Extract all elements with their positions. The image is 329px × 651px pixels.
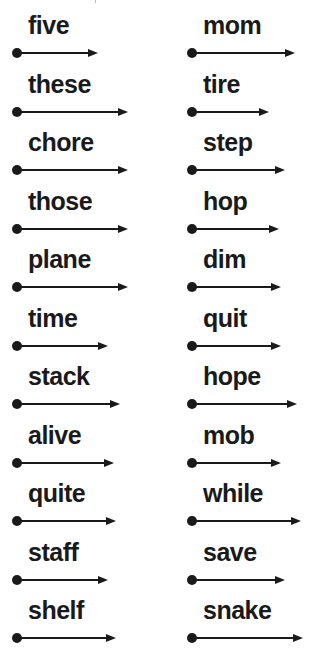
- arrowhead-icon: [271, 459, 281, 467]
- word-label: staff: [28, 538, 78, 566]
- writing-arrow: [187, 574, 285, 586]
- arrow-shaft: [193, 228, 271, 230]
- arrow-shaft: [193, 111, 261, 113]
- word-label: shelf: [28, 596, 84, 624]
- arrowhead-icon: [275, 576, 285, 584]
- arrowhead-icon: [88, 49, 98, 57]
- arrow-shaft: [193, 637, 295, 639]
- writing-arrow: [12, 340, 108, 352]
- arrowhead-icon: [118, 283, 128, 291]
- word-item: mob: [187, 413, 297, 463]
- word-label: mob: [203, 421, 254, 449]
- word-item: time: [12, 296, 124, 346]
- arrowhead-icon: [118, 225, 128, 233]
- writing-arrow: [187, 632, 303, 644]
- arrow-shaft: [193, 520, 293, 522]
- word-label: five: [28, 11, 69, 39]
- arrowhead-icon: [106, 517, 116, 525]
- word-label: save: [203, 538, 257, 566]
- arrow-shaft: [193, 462, 273, 464]
- writing-arrow: [12, 398, 120, 410]
- word-label: mom: [203, 11, 261, 39]
- word-item: those: [12, 179, 144, 229]
- writing-arrow: [12, 223, 128, 235]
- writing-arrow: [187, 47, 295, 59]
- arrowhead-icon: [269, 225, 279, 233]
- writing-arrow: [187, 398, 297, 410]
- arrowhead-icon: [98, 342, 108, 350]
- writing-arrow: [187, 223, 279, 235]
- word-label: these: [28, 70, 91, 98]
- arrow-shaft: [18, 403, 112, 405]
- word-label: alive: [28, 421, 81, 449]
- arrowhead-icon: [106, 634, 116, 642]
- writing-arrow: [187, 457, 281, 469]
- word-item: stack: [12, 354, 136, 404]
- word-item: hop: [187, 179, 295, 229]
- word-label: chore: [28, 128, 94, 156]
- word-item: save: [187, 530, 301, 580]
- writing-arrow: [187, 340, 281, 352]
- word-label: while: [203, 479, 263, 507]
- arrowhead-icon: [285, 49, 295, 57]
- word-label: quite: [28, 479, 85, 507]
- word-item: plane: [12, 237, 144, 287]
- word-item: staff: [12, 530, 124, 580]
- arrow-shaft: [18, 111, 120, 113]
- writing-arrow: [12, 164, 128, 176]
- writing-arrow: [187, 515, 301, 527]
- word-item: snake: [187, 588, 319, 638]
- writing-arrow: [12, 632, 116, 644]
- word-label: hope: [203, 362, 261, 390]
- arrow-shaft: [193, 579, 277, 581]
- arrowhead-icon: [287, 400, 297, 408]
- word-label: tire: [203, 70, 240, 98]
- word-item: while: [187, 471, 317, 521]
- arrowhead-icon: [271, 342, 281, 350]
- word-label: stack: [28, 362, 89, 390]
- word-item: quit: [187, 296, 297, 346]
- word-item: step: [187, 120, 301, 170]
- arrow-shaft: [18, 462, 106, 464]
- arrow-shaft: [18, 228, 120, 230]
- arrow-shaft: [18, 169, 120, 171]
- arrow-shaft: [18, 52, 90, 54]
- writing-arrow: [187, 164, 285, 176]
- word-label: step: [203, 128, 252, 156]
- arrowhead-icon: [259, 108, 269, 116]
- word-item: mom: [187, 3, 311, 53]
- arrowhead-icon: [293, 634, 303, 642]
- arrowhead-icon: [118, 166, 128, 174]
- word-item: these: [12, 62, 144, 112]
- word-label: plane: [28, 245, 91, 273]
- writing-arrow: [12, 47, 98, 59]
- word-label: quit: [203, 304, 247, 332]
- arrow-shaft: [18, 579, 100, 581]
- word-label: those: [28, 187, 92, 215]
- word-item: five: [12, 3, 114, 53]
- arrow-shaft: [18, 520, 108, 522]
- word-label: time: [28, 304, 77, 332]
- word-item: tire: [187, 62, 285, 112]
- word-label: hop: [203, 187, 247, 215]
- word-label: snake: [203, 596, 271, 624]
- arrowhead-icon: [118, 108, 128, 116]
- word-item: alive: [12, 413, 130, 463]
- writing-arrow: [187, 106, 269, 118]
- arrow-shaft: [18, 345, 100, 347]
- word-label: dim: [203, 245, 246, 273]
- arrowhead-icon: [275, 166, 285, 174]
- arrow-shaft: [193, 345, 273, 347]
- arrowhead-icon: [271, 283, 281, 291]
- writing-arrow: [12, 457, 114, 469]
- writing-arrow: [12, 106, 128, 118]
- arrow-shaft: [18, 637, 108, 639]
- word-item: hope: [187, 354, 313, 404]
- arrow-shaft: [193, 403, 289, 405]
- writing-arrow: [12, 515, 116, 527]
- word-item: quite: [12, 471, 132, 521]
- arrowhead-icon: [291, 517, 301, 525]
- word-item: dim: [187, 237, 297, 287]
- arrow-shaft: [193, 169, 277, 171]
- arrowhead-icon: [104, 459, 114, 467]
